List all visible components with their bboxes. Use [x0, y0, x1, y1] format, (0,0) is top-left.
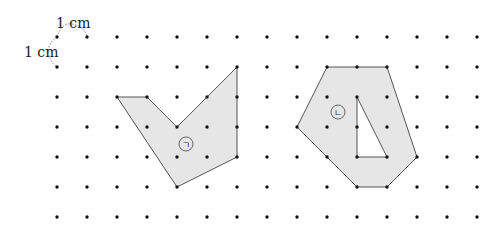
grid-dot: [205, 65, 208, 68]
grid-dot: [55, 65, 58, 68]
grid-dot: [475, 155, 478, 158]
grid-dot: [85, 185, 88, 188]
grid-dot: [55, 215, 58, 218]
grid-dot: [415, 35, 418, 38]
grid-dot: [445, 65, 448, 68]
grid-dot: [265, 35, 268, 38]
grid-dot: [295, 185, 298, 188]
grid-dot: [115, 215, 118, 218]
grid-dot: [145, 185, 148, 188]
shape-label: ㄴ: [334, 108, 342, 118]
grid-dot: [115, 125, 118, 128]
grid-dot: [325, 155, 328, 158]
grid-dot: [325, 125, 328, 128]
grid-dot: [235, 125, 238, 128]
grid-dot: [265, 215, 268, 218]
grid-dot: [385, 95, 388, 98]
grid-dot: [295, 215, 298, 218]
grid-dot: [355, 185, 358, 188]
grid-dot: [415, 95, 418, 98]
grid-dot: [415, 215, 418, 218]
grid-dot: [205, 185, 208, 188]
grid-dot: [145, 155, 148, 158]
grid-dot: [85, 95, 88, 98]
grid-dot: [85, 125, 88, 128]
grid-dot: [325, 35, 328, 38]
grid-dot: [205, 125, 208, 128]
grid-dot: [175, 95, 178, 98]
grid-dot: [445, 155, 448, 158]
grid-dot: [385, 185, 388, 188]
grid-dot: [355, 95, 358, 98]
grid-dot: [175, 155, 178, 158]
grid-dot: [55, 95, 58, 98]
grid-dot: [115, 95, 118, 98]
grid-dot: [205, 215, 208, 218]
grid-dot: [235, 95, 238, 98]
grid-dot: [55, 35, 58, 38]
grid-dot: [385, 155, 388, 158]
grid-dot: [295, 125, 298, 128]
grid-dot: [295, 65, 298, 68]
dot-grid-diagram: 1 cm 1 cm ㄱㄴ: [0, 0, 497, 236]
grid-dot: [265, 65, 268, 68]
grid-dot: [175, 185, 178, 188]
grid-dot: [115, 155, 118, 158]
grid-dot: [445, 125, 448, 128]
grid-dot: [55, 155, 58, 158]
grid-dot: [175, 35, 178, 38]
grid-dot: [55, 185, 58, 188]
grid-dot: [385, 35, 388, 38]
scale-indicator: 1 cm 1 cm: [24, 15, 90, 67]
grid-dot: [475, 125, 478, 128]
grid-dot: [385, 215, 388, 218]
grid-dot: [235, 185, 238, 188]
grid-dot: [145, 35, 148, 38]
grid-dot: [205, 35, 208, 38]
grid-dot: [415, 185, 418, 188]
grid-dot: [475, 65, 478, 68]
grid-dot: [175, 125, 178, 128]
grid-dot: [265, 185, 268, 188]
grid-dot: [265, 95, 268, 98]
grid-dot: [55, 125, 58, 128]
grid-dot: [415, 155, 418, 158]
grid-dot: [445, 185, 448, 188]
grid-dot: [85, 65, 88, 68]
scale-label-horizontal: 1 cm: [56, 15, 90, 31]
grid-dot: [235, 35, 238, 38]
scale-label-vertical: 1 cm: [24, 44, 58, 60]
grid-dot: [295, 95, 298, 98]
grid-dot: [445, 215, 448, 218]
grid-dot: [175, 215, 178, 218]
grid-dot: [325, 185, 328, 188]
grid-dot: [145, 215, 148, 218]
grid-dot: [325, 215, 328, 218]
grid-dot: [295, 35, 298, 38]
grid-dot: [385, 125, 388, 128]
grid-dot: [475, 215, 478, 218]
grid-dot: [235, 215, 238, 218]
grid-dot: [415, 65, 418, 68]
grid-dot: [205, 95, 208, 98]
grid-dot: [385, 65, 388, 68]
grid-dot: [235, 65, 238, 68]
grid-dot: [85, 155, 88, 158]
grid-dot: [355, 125, 358, 128]
grid-dot: [325, 65, 328, 68]
shape-label: ㄱ: [182, 140, 190, 150]
grid-dot: [235, 155, 238, 158]
grid-dot: [325, 95, 328, 98]
grid-dot: [475, 35, 478, 38]
grid-dot: [355, 65, 358, 68]
grid-dot: [145, 95, 148, 98]
grid-dot: [475, 95, 478, 98]
grid-dot: [355, 35, 358, 38]
grid-dot: [265, 155, 268, 158]
grid-dot: [445, 35, 448, 38]
grid-dot: [85, 35, 88, 38]
grid-dot: [115, 185, 118, 188]
grid-dot: [85, 215, 88, 218]
grid-dot: [355, 215, 358, 218]
grid-dot: [445, 95, 448, 98]
